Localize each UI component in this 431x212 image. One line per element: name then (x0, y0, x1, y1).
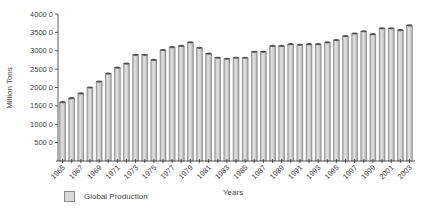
y-tick-label: 4000 0 (30, 10, 53, 19)
bar-cap (224, 58, 230, 60)
bar-cap (233, 57, 239, 59)
bar-cap (69, 97, 75, 99)
y-axis-ticks: 500 01000 01500 02000 02500 03000 03500 … (30, 10, 58, 148)
bar-1996 (343, 36, 349, 161)
bar-1983 (224, 59, 230, 161)
x-tick-label: 1981 (195, 163, 213, 181)
bar-2003 (406, 25, 412, 161)
bar-2002 (397, 30, 403, 161)
bar-cap (297, 44, 303, 46)
y-axis-title: Million Tons (5, 67, 14, 109)
bar-chart: 500 01000 01500 02000 02500 03000 03500 … (0, 0, 431, 212)
bar-1993 (315, 44, 321, 161)
bar-1997 (352, 33, 358, 161)
x-tick-label: 1977 (158, 163, 176, 181)
bar-cap (196, 47, 202, 49)
bar-1973 (133, 55, 139, 161)
x-tick-label: 1975 (140, 163, 158, 181)
x-tick-label: 1985 (231, 163, 249, 181)
bar-cap (324, 41, 330, 43)
x-tick-label: 1965 (49, 163, 67, 181)
bar-1989 (279, 46, 285, 161)
bar-cap (352, 32, 358, 34)
y-tick-label: 2500 0 (30, 65, 53, 74)
x-tick-label: 1991 (286, 163, 304, 181)
bar-1998 (361, 31, 367, 161)
bar-1986 (251, 52, 257, 161)
x-tick-label: 1999 (359, 163, 377, 181)
bar-1977 (169, 47, 175, 161)
bar-cap (379, 27, 385, 29)
bar-cap (397, 29, 403, 31)
bar-cap (87, 86, 93, 88)
x-axis-title: Years (223, 188, 243, 197)
x-tick-label: 1971 (104, 163, 122, 181)
bar-1984 (233, 58, 239, 161)
bar-cap (306, 43, 312, 45)
bar-cap (142, 54, 148, 56)
x-tick-label: 1997 (341, 163, 359, 181)
bar-1968 (87, 88, 93, 162)
bar-1978 (178, 46, 184, 161)
bar-1988 (270, 46, 276, 161)
x-tick-label: 1973 (122, 163, 140, 181)
bar-cap (270, 45, 276, 47)
bar-1970 (105, 74, 111, 161)
bar-cap (406, 24, 412, 26)
bar-cap (105, 72, 111, 74)
bar-cap (370, 33, 376, 35)
bar-cap (160, 49, 166, 51)
bar-cap (315, 43, 321, 45)
bar-cap (288, 43, 294, 45)
bar-1995 (333, 40, 339, 161)
y-tick-label: 3500 0 (30, 28, 53, 37)
x-tick-label: 1979 (177, 163, 195, 181)
bar-2000 (379, 28, 385, 161)
legend-label: Global Production (84, 192, 148, 201)
bar-cap (96, 81, 102, 83)
bar-cap (260, 51, 266, 53)
bar-1976 (160, 50, 166, 161)
x-tick-label: 2003 (396, 163, 414, 181)
bar-cap (151, 59, 157, 61)
x-tick-label: 1987 (250, 163, 268, 181)
bar-cap (78, 92, 84, 94)
bar-1972 (123, 64, 129, 161)
bar-cap (388, 27, 394, 29)
bar-cap (114, 67, 120, 69)
x-tick-label: 1983 (213, 163, 231, 181)
bar-cap (187, 41, 193, 43)
bar-cap (123, 63, 129, 65)
bar-cap (60, 101, 66, 103)
bar-1979 (187, 42, 193, 161)
bar-cap (343, 35, 349, 37)
bar-1990 (288, 44, 294, 161)
bar-cap (133, 54, 139, 56)
bar-1980 (196, 48, 202, 161)
bar-cap (215, 57, 221, 59)
y-tick-label: 1000 0 (30, 120, 53, 129)
bar-cap (206, 53, 212, 55)
bar-2001 (388, 28, 394, 161)
bar-cap (361, 30, 367, 32)
bar-1982 (215, 58, 221, 161)
x-axis-ticks: 1965196719691971197319751977197919811983… (49, 159, 414, 181)
bar-1985 (242, 58, 248, 161)
legend: Global Production (64, 191, 148, 202)
legend-swatch (64, 191, 75, 202)
bar-1992 (306, 44, 312, 161)
y-tick-label: 2000 0 (30, 83, 53, 92)
bar-cap (178, 45, 184, 47)
bar-1966 (69, 98, 75, 161)
bar-cap (251, 51, 257, 53)
bar-1975 (151, 60, 157, 161)
bar-cap (242, 57, 248, 59)
bar-cap (169, 46, 175, 48)
bar-1987 (260, 52, 266, 161)
x-tick-label: 1989 (268, 163, 286, 181)
y-tick-label: 500 0 (34, 138, 53, 147)
x-tick-label: 1969 (85, 163, 103, 181)
bar-1991 (297, 45, 303, 161)
bar-1971 (114, 68, 120, 161)
bar-1974 (142, 55, 148, 161)
